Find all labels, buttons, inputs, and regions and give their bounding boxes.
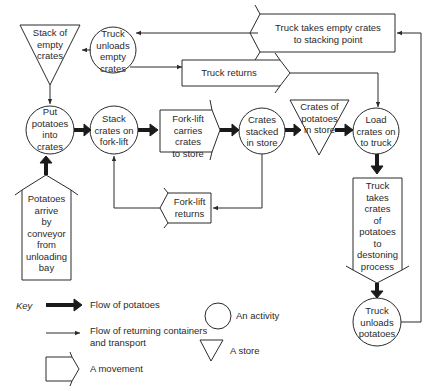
label-truck-unloads-empty: Truck unloads empty crates <box>90 28 136 74</box>
label-load-truck: Load crates on to truck <box>352 114 400 149</box>
label-truck-returns: Truck returns <box>186 67 272 79</box>
label-crates-stacked: Crates stacked in store <box>239 114 285 149</box>
key-movement: A movement <box>90 363 143 375</box>
label-stack-empty-crates: Stack of empty crates <box>28 27 72 62</box>
label-stack-on-forklift: Stack crates on fork-lift <box>90 113 138 148</box>
label-forklift-returns: Fork-lift returns <box>168 196 211 219</box>
label-forklift-carries: Fork-lift carries crates to store <box>160 113 216 159</box>
label-put-potatoes: Put potatoes into crates <box>26 106 74 152</box>
key-flow-returning: Flow of returning containers and transpo… <box>90 325 207 348</box>
label-truck-takes-potatoes: Truck takes crates of potatoes to deston… <box>353 180 402 272</box>
label-potatoes-arrive: Potatoes arrive by conveyor from unloadi… <box>22 193 71 274</box>
label-truck-takes-empty: Truck takes empty crates to stacking poi… <box>262 22 394 45</box>
key-flow-potatoes: Flow of potatoes <box>90 299 160 311</box>
key-title: Key <box>16 300 32 311</box>
key-store: A store <box>230 345 260 357</box>
label-crates-in-store: Crates of potatoes in store <box>293 101 346 136</box>
key-activity: An activity <box>236 310 279 322</box>
label-truck-unloads-potatoes: Truck unloads potatoes <box>353 305 401 340</box>
